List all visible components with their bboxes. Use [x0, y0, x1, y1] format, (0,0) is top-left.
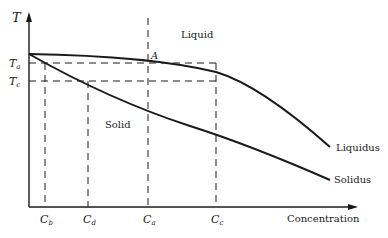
- y-axis-arrow-icon: [26, 12, 32, 22]
- tick-cc: Cc: [211, 213, 223, 227]
- tick-tc: Tc: [9, 75, 20, 89]
- region-liquid-label: Liquid: [181, 29, 214, 40]
- tick-cd: Cd: [83, 213, 96, 227]
- tick-ta: Ta: [9, 57, 21, 71]
- tick-ca: Ca: [143, 213, 156, 227]
- phase-diagram: T Concentration Ta Tc Cb Cd Ca Cc Liquid…: [0, 0, 388, 238]
- liquidus-label: Liquidus: [336, 142, 380, 153]
- x-axis-label: Concentration: [287, 213, 360, 224]
- x-axis-arrow-icon: [348, 204, 358, 210]
- tick-cb: Cb: [40, 213, 53, 227]
- liquidus-curve: [29, 54, 330, 147]
- point-a-label: A: [150, 50, 158, 61]
- solidus-label: Solidus: [334, 174, 371, 185]
- region-solid-label: Solid: [105, 119, 131, 130]
- y-axis-label: T: [12, 10, 22, 25]
- solidus-curve: [29, 54, 330, 180]
